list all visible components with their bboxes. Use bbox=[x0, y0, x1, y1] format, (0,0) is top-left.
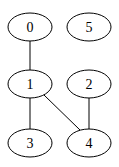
node-1: 1 bbox=[8, 70, 52, 98]
node-label: 5 bbox=[86, 20, 93, 35]
node-label: 0 bbox=[27, 20, 34, 35]
node-3: 3 bbox=[8, 129, 52, 157]
node-label: 1 bbox=[27, 77, 34, 92]
node-2: 2 bbox=[67, 70, 111, 98]
node-label: 4 bbox=[86, 136, 93, 151]
graph-diagram: 0 5 1 2 3 4 bbox=[0, 0, 119, 167]
node-0: 0 bbox=[8, 13, 52, 41]
node-label: 2 bbox=[86, 77, 93, 92]
node-5: 5 bbox=[67, 13, 111, 41]
edge-1-4 bbox=[44, 95, 80, 130]
node-4: 4 bbox=[67, 129, 111, 157]
node-label: 3 bbox=[27, 136, 34, 151]
